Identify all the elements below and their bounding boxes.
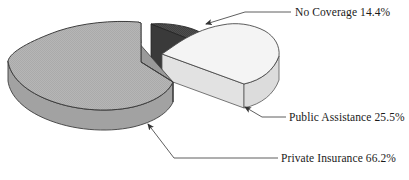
callout-label-private-insurance: Private Insurance 66.2% bbox=[281, 152, 396, 164]
pie-chart-figure: No Coverage 14.4% Public Assistance 25.5… bbox=[0, 0, 409, 180]
pie-slice-private-insurance bbox=[8, 21, 173, 130]
leader-line-private-insurance bbox=[148, 124, 278, 158]
leader-line-no-coverage bbox=[206, 12, 291, 24]
leader-line-public-assistance bbox=[245, 107, 286, 117]
callout-label-no-coverage: No Coverage 14.4% bbox=[295, 6, 390, 18]
callout-label-public-assistance: Public Assistance 25.5% bbox=[289, 111, 405, 123]
